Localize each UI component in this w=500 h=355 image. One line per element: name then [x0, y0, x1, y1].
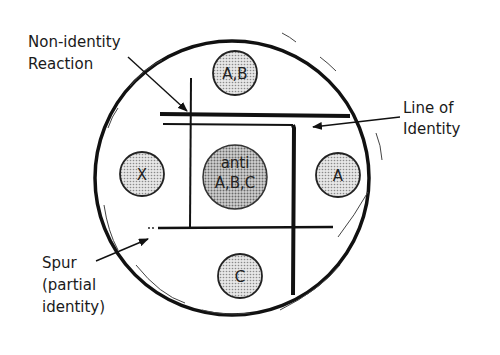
center-well-line2: A,B,C	[215, 174, 256, 192]
well-bottom: C	[218, 254, 262, 298]
spur-dot	[152, 227, 154, 229]
spur-line3: identity)	[42, 298, 105, 316]
well-center: anti A,B,C	[203, 145, 267, 209]
non-identity-line1: Non-identity	[28, 33, 121, 51]
spur-line1: Spur	[42, 254, 78, 272]
well-right-label: A	[333, 167, 344, 185]
non-identity-line2: Reaction	[28, 55, 93, 73]
precipitin-line-top-inner	[163, 124, 293, 125]
dish-highlight-arc	[282, 33, 296, 42]
precipitin-line-left	[190, 78, 191, 228]
well-bottom-label: C	[235, 268, 245, 286]
center-well-line1: anti	[221, 154, 250, 172]
spur-line2: (partial	[42, 276, 96, 294]
precipitin-line-bottom	[158, 227, 333, 228]
precipitin-line-right	[293, 125, 294, 295]
line-of-identity-line1: Line of	[403, 99, 454, 117]
well-left-label: X	[137, 166, 147, 184]
dish-highlight-arc	[320, 57, 336, 71]
well-top: A,B	[213, 51, 257, 95]
well-left: X	[120, 152, 164, 196]
line-of-identity-line2: Identity	[403, 120, 461, 138]
immunodiffusion-diagram: A,B X A C anti A,B,C Non-identity Reacti…	[0, 0, 500, 355]
dish-highlight-arc	[376, 133, 382, 160]
well-right: A	[316, 153, 360, 197]
precipitin-line-top	[160, 114, 350, 116]
well-top-label: A,B	[222, 65, 247, 83]
spur-dot	[148, 227, 150, 229]
